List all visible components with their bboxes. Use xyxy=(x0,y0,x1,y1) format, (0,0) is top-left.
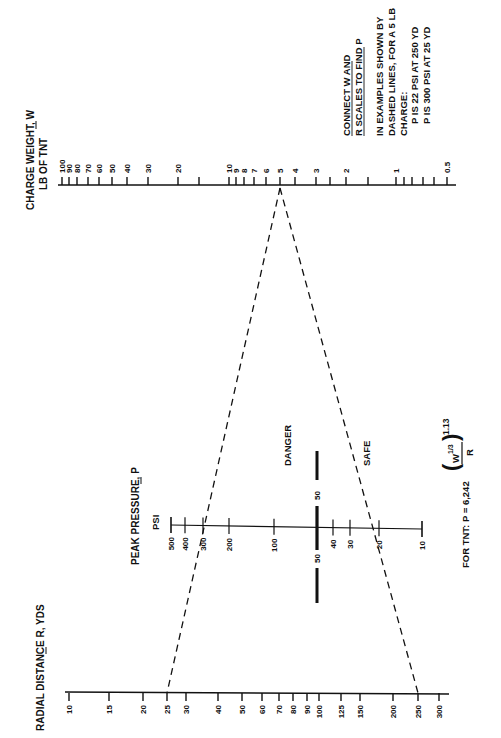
charge-weight-title: CHARGE WEIGHT, W xyxy=(25,109,36,210)
radial-distance-tick-label: 250 xyxy=(414,704,423,718)
formula-fraction: ( W 1/3 R ) 1.13 xyxy=(438,418,475,471)
example-result2: P IS 300 PSI AT 25 YD xyxy=(421,27,432,124)
formula-prefix: FOR TNT: P = 6,242 xyxy=(460,481,471,568)
psi-unit-label: PSI xyxy=(150,515,161,530)
peak-pressure-scale: 500400300200100403020105050 xyxy=(167,451,427,603)
charge-weight-tick-label: 3 xyxy=(312,168,321,173)
peak-pressure-axis-line xyxy=(171,525,422,529)
charge-weight-tick-label: 20 xyxy=(174,164,183,173)
radial-distance-tick-label: 25 xyxy=(163,704,172,713)
peak-pressure-tick-label: 200 xyxy=(225,537,234,551)
formula-numerator-exponent: 1/3 xyxy=(447,444,454,454)
radial-distance-title: RADIAL DISTANCE R, YDS xyxy=(35,604,46,731)
charge-weight-tick-label: 5 xyxy=(276,168,285,173)
peak-pressure-tick-label: 20 xyxy=(375,540,384,549)
charge-weight-tick-label: 2 xyxy=(342,168,351,173)
example-dashed-line xyxy=(280,188,418,693)
radial-distance-tick-label: 20 xyxy=(139,704,148,713)
radial-distance-tick-label: 30 xyxy=(182,704,191,713)
charge-weight-tick-label: 60 xyxy=(95,164,104,173)
peak-pressure-tick-label: 100 xyxy=(270,538,279,552)
formula-exponent: 1.13 xyxy=(441,418,451,435)
radial-distance-tick-label: 80 xyxy=(289,704,298,713)
example-line3: CHARGE: xyxy=(398,92,409,136)
formula-denominator: R xyxy=(464,449,475,456)
instruction-line2: R SCALES TO FIND P xyxy=(353,38,364,136)
peak-pressure-tick-label: 30 xyxy=(346,539,355,548)
charge-weight-scale: 1009080706050403020109876543210.5 xyxy=(58,159,456,185)
formula-left-paren: ( xyxy=(438,463,463,471)
radial-distance-tick-label: 200 xyxy=(389,704,398,718)
charge-weight-tick-label: 80 xyxy=(73,164,82,173)
example-line1: IN EXAMPLES SHOWN BY xyxy=(374,16,385,136)
peak-pressure-tick-label: 40 xyxy=(329,539,338,548)
peak-pressure-tick-label: 10 xyxy=(418,540,427,549)
formula-numerator: W xyxy=(450,454,461,463)
example-line2: DASHED LINES, FOR A 5 LB xyxy=(386,8,397,136)
radial-distance-tick-label: 70 xyxy=(275,704,284,713)
radial-distance-tick-label: 125 xyxy=(337,704,346,718)
charge-weight-subtitle: LB OF TNT xyxy=(38,138,49,190)
radial-distance-tick-label: 300 xyxy=(435,704,444,718)
radial-distance-tick-label: 60 xyxy=(258,704,267,713)
instruction-line1: CONNECT W AND xyxy=(341,54,352,136)
charge-weight-tick-label: 0.5 xyxy=(443,161,452,173)
charge-weight-tick-label: 6 xyxy=(262,168,271,173)
charge-weight-tick-label: 7 xyxy=(250,168,259,173)
charge-weight-tick-label: 30 xyxy=(144,164,153,173)
threshold-label-top: 50 xyxy=(313,491,322,500)
safe-label: SAFE xyxy=(361,441,372,466)
peak-pressure-title: PEAK PRESSURE, P xyxy=(130,467,141,565)
charge-weight-tick-label: 1 xyxy=(392,168,401,173)
danger-label: DANGER xyxy=(282,425,293,466)
charge-weight-tick-label: 70 xyxy=(84,164,93,173)
radial-distance-tick-label: 40 xyxy=(214,704,223,713)
radial-distance-tick-label: 15 xyxy=(105,704,114,713)
radial-distance-tick-label: 90 xyxy=(303,704,312,713)
nomograph: 1009080706050403020109876543210.5 500400… xyxy=(0,0,501,738)
example-dashed-line xyxy=(167,188,280,693)
peak-pressure-tick-label: 400 xyxy=(181,537,190,551)
peak-pressure-tick-label: 300 xyxy=(199,537,208,551)
charge-weight-tick-label: 40 xyxy=(123,164,132,173)
charge-weight-tick-label: 50 xyxy=(108,164,117,173)
radial-distance-scale: 1015202530405060708090100125150200250300 xyxy=(65,692,449,718)
radial-distance-tick-label: 100 xyxy=(315,704,324,718)
peak-pressure-tick-label: 500 xyxy=(167,536,176,550)
example-result1: P IS 22 PSI AT 250 YD xyxy=(409,27,420,124)
radial-distance-axis-line xyxy=(65,692,449,694)
radial-distance-tick-label: 10 xyxy=(65,704,74,713)
charge-weight-tick-label: 4 xyxy=(291,168,300,173)
charge-weight-tick-label: 8 xyxy=(240,168,249,173)
radial-distance-tick-label: 50 xyxy=(238,704,247,713)
threshold-label-bottom: 50 xyxy=(313,554,322,563)
radial-distance-tick-label: 150 xyxy=(356,704,365,718)
